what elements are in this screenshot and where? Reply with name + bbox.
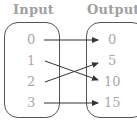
arrow-2-to-5 bbox=[45, 63, 98, 82]
mapping-arrows bbox=[0, 0, 137, 131]
arrow-1-to-10 bbox=[45, 61, 98, 80]
